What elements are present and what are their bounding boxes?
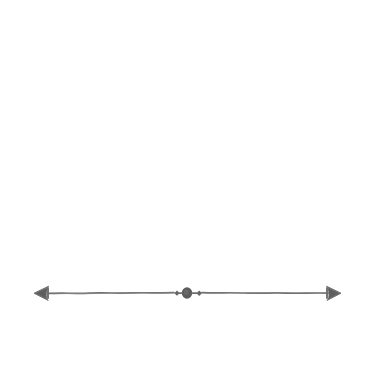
right-rule-texture [206, 293, 326, 294]
center-oval-bead-highlight [184, 290, 189, 295]
ornament-group [34, 286, 341, 300]
divider-ornament-illustration [0, 0, 374, 370]
page-canvas: A hand-drawn, slightly wavy horizontal r… [0, 0, 374, 370]
